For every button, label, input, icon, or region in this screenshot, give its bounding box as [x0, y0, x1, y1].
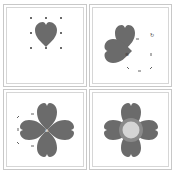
panel-step-3: ⊗: [3, 89, 87, 170]
heart-selected-illustration: [4, 5, 88, 88]
panel-step-4: [89, 89, 172, 170]
flower-illustration: [90, 90, 173, 171]
flower-center: [123, 122, 140, 139]
step-grid: ⊗ ↻: [0, 0, 174, 173]
rotate-handle-icon: ↻: [150, 32, 154, 38]
rotation-center-marker: ⊗: [125, 51, 129, 57]
panel-step-2: ⊗ ↻: [89, 4, 172, 87]
heart-shape: [35, 22, 57, 47]
center-marker: ⊗: [45, 128, 48, 133]
heart-rotate-illustration: ⊗ ↻: [90, 5, 173, 88]
panel-step-1: [3, 4, 87, 87]
clover-illustration: ⊗: [4, 90, 88, 171]
